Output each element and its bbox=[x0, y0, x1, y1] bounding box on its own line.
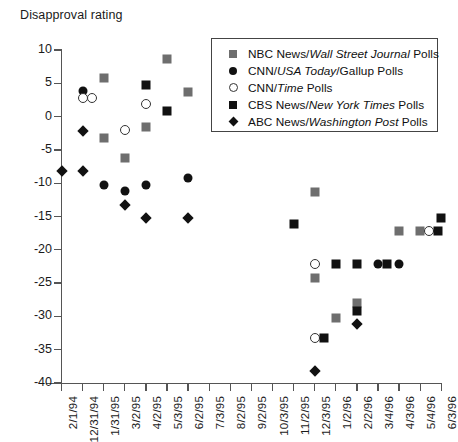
chart-title: Disapproval rating bbox=[20, 8, 123, 22]
x-axis-tick-label: 1/31/95 bbox=[109, 396, 121, 436]
legend-item-label: CNN/Time Polls bbox=[248, 81, 333, 95]
legend-item[interactable]: CBS News/New York Times Polls bbox=[212, 96, 437, 113]
x-axis-tick-label: 3/4/96 bbox=[383, 396, 395, 429]
data-point bbox=[310, 273, 319, 282]
data-point bbox=[120, 125, 130, 135]
data-point bbox=[120, 187, 129, 196]
x-axis-tick bbox=[335, 383, 336, 391]
x-axis-tick-label: 5/3/95 bbox=[172, 396, 184, 429]
data-point bbox=[184, 173, 193, 182]
y-axis-tick-label: -10 bbox=[6, 175, 52, 189]
x-axis-tick bbox=[272, 383, 273, 391]
y-axis-tick-label: -25 bbox=[6, 275, 52, 289]
x-axis-tick-label: 2/1/94 bbox=[67, 396, 79, 429]
data-point bbox=[395, 260, 404, 269]
x-axis-line bbox=[46, 383, 442, 384]
data-point bbox=[437, 213, 446, 222]
data-point bbox=[319, 333, 328, 342]
x-axis-tick-label: 6/3/96 bbox=[446, 396, 458, 429]
data-point bbox=[351, 319, 362, 330]
x-axis-tick bbox=[356, 383, 357, 391]
data-point bbox=[119, 199, 130, 210]
data-point bbox=[352, 307, 361, 316]
y-axis-tick-label: 10 bbox=[6, 42, 52, 56]
y-axis-tick-label: -15 bbox=[6, 209, 52, 223]
data-point bbox=[182, 212, 193, 223]
data-point bbox=[120, 153, 129, 162]
x-axis-tick bbox=[377, 383, 378, 391]
x-axis-tick bbox=[124, 383, 125, 391]
x-axis-tick bbox=[61, 383, 62, 391]
legend-item[interactable]: NBC News/Wall Street Journal Polls bbox=[212, 45, 437, 62]
y-axis-tick bbox=[54, 282, 62, 283]
legend-item[interactable]: CNN/USA Today/Gallup Polls bbox=[212, 62, 437, 79]
x-axis-tick-label: 4/3/96 bbox=[404, 396, 416, 429]
legend-item[interactable]: CNN/Time Polls bbox=[212, 79, 437, 96]
y-axis-tick bbox=[54, 316, 62, 317]
data-point bbox=[331, 313, 340, 322]
data-point bbox=[140, 212, 151, 223]
data-point bbox=[383, 260, 392, 269]
x-axis-tick-label: 1/2/96 bbox=[341, 396, 353, 429]
x-axis-tick bbox=[166, 383, 167, 391]
data-point bbox=[141, 99, 151, 109]
x-axis-tick bbox=[103, 383, 104, 391]
y-axis-tick-label: -30 bbox=[6, 308, 52, 322]
x-axis-tick bbox=[293, 383, 294, 391]
y-axis-tick bbox=[54, 216, 62, 217]
data-point bbox=[395, 227, 404, 236]
data-point bbox=[99, 133, 108, 142]
x-axis-tick bbox=[314, 383, 315, 391]
legend-item-label: CNN/USA Today/Gallup Polls bbox=[248, 64, 403, 78]
x-axis-tick bbox=[441, 383, 442, 391]
y-axis-tick bbox=[54, 349, 62, 350]
y-axis-tick bbox=[54, 116, 62, 117]
data-point bbox=[434, 227, 443, 236]
data-point bbox=[184, 87, 193, 96]
legend-item[interactable]: ABC News/Washington Post Polls bbox=[212, 113, 437, 130]
data-point bbox=[163, 107, 172, 116]
y-axis-tick bbox=[54, 183, 62, 184]
y-axis-tick-label: 5 bbox=[6, 75, 52, 89]
y-axis-tick-label: -5 bbox=[6, 142, 52, 156]
legend-marker-icon bbox=[225, 101, 241, 109]
x-axis-tick-label: 11/2/95 bbox=[299, 396, 311, 435]
data-point bbox=[87, 93, 97, 103]
x-axis-tick-label: 4/2/95 bbox=[151, 396, 163, 429]
data-point bbox=[331, 260, 340, 269]
data-point bbox=[77, 126, 88, 137]
y-axis-tick bbox=[54, 83, 62, 84]
x-axis-tick-label: 6/2/95 bbox=[193, 396, 205, 429]
data-point bbox=[99, 73, 108, 82]
x-axis-tick-label: 10/3/95 bbox=[278, 396, 290, 436]
y-axis-tick bbox=[54, 49, 62, 50]
x-axis-tick-label: 12/3/95 bbox=[320, 396, 332, 436]
x-axis-tick-label: 2/2/96 bbox=[362, 396, 374, 429]
data-point bbox=[374, 260, 383, 269]
x-axis-tick bbox=[251, 383, 252, 391]
x-axis-tick-label: 3/2/95 bbox=[130, 396, 142, 429]
legend-item-label: NBC News/Wall Street Journal Polls bbox=[248, 47, 439, 61]
data-point bbox=[99, 180, 108, 189]
legend-marker-icon bbox=[225, 118, 241, 125]
data-point bbox=[310, 333, 320, 343]
y-axis-tick bbox=[54, 249, 62, 250]
data-point bbox=[424, 226, 434, 236]
data-point bbox=[309, 365, 320, 376]
data-point bbox=[310, 259, 320, 269]
data-point bbox=[141, 180, 150, 189]
x-axis-tick bbox=[230, 383, 231, 391]
x-axis-tick-label: 12/31/94 bbox=[88, 396, 100, 442]
y-axis-tick bbox=[54, 149, 62, 150]
x-axis-tick-label: 5/4/96 bbox=[425, 396, 437, 429]
x-axis-tick-label: 7/3/95 bbox=[214, 396, 226, 429]
x-axis-tick bbox=[398, 383, 399, 391]
legend-item-label: CBS News/New York Times Polls bbox=[248, 98, 424, 112]
x-axis-tick bbox=[420, 383, 421, 391]
x-axis-tick-label: 8/2/95 bbox=[235, 396, 247, 429]
legend-marker-icon bbox=[225, 50, 241, 58]
x-axis-tick-label: 9/2/95 bbox=[256, 396, 268, 429]
x-axis-tick bbox=[209, 383, 210, 391]
data-point bbox=[77, 166, 88, 177]
